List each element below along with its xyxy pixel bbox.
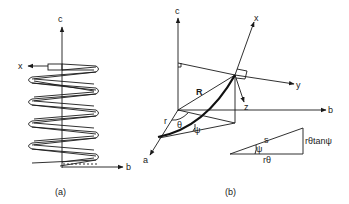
label-psi: ψ — [194, 125, 200, 135]
label-c-a: c — [58, 14, 63, 24]
label-r-theta: rθ — [263, 155, 271, 165]
label-theta: θ — [177, 120, 182, 130]
label-triangle-psi: ψ — [256, 144, 262, 154]
label-b-a: b — [126, 162, 131, 172]
caption-b: (b) — [225, 187, 236, 197]
label-b-b: b — [328, 105, 333, 115]
right-angle-marker-p — [236, 69, 247, 79]
helical-coil — [29, 64, 99, 163]
panel-b: c x y z b a R r θ ψ s ψ rθ rθtanψ (b) — [143, 6, 333, 197]
label-r-theta-tan-psi: rθtanψ — [305, 136, 332, 146]
label-x-b: x — [254, 13, 259, 23]
projection-line-top — [178, 63, 235, 75]
label-s: s — [264, 135, 269, 145]
label-y-b: y — [296, 80, 301, 90]
label-a-b: a — [143, 155, 148, 165]
label-x-a: x — [18, 61, 23, 71]
y-axis-b — [235, 75, 294, 84]
label-r: r — [164, 116, 167, 126]
caption-a: (a) — [55, 187, 66, 197]
panel-a: c x b (a) — [18, 14, 131, 197]
radius-R-line — [178, 75, 235, 110]
label-R: R — [196, 87, 203, 97]
label-z-b: z — [244, 102, 249, 112]
x-axis-b — [235, 22, 254, 75]
figure-canvas: c x b (a) c — [0, 0, 349, 204]
coil-end-tab — [48, 64, 62, 70]
label-c-b: c — [175, 6, 180, 16]
